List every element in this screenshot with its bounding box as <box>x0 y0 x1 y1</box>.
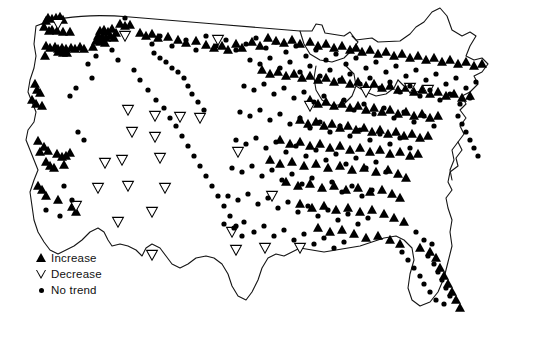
marker-increase <box>335 161 345 170</box>
marker-decrease <box>117 155 128 165</box>
marker-increase <box>455 303 465 312</box>
marker-increase <box>349 229 359 238</box>
marker-no-trend <box>345 211 350 216</box>
marker-no-trend <box>239 233 244 238</box>
marker-no-trend <box>349 183 354 188</box>
marker-no-trend <box>341 239 346 244</box>
marker-increase <box>305 141 315 150</box>
marker-no-trend <box>323 57 328 62</box>
marker-no-trend <box>321 235 326 240</box>
marker-no-trend <box>145 87 150 92</box>
marker-no-trend <box>343 161 348 166</box>
marker-increase <box>367 205 377 214</box>
marker-no-trend <box>69 197 74 202</box>
marker-no-trend <box>153 97 158 102</box>
marker-no-trend <box>433 297 438 302</box>
marker-no-trend <box>363 165 368 170</box>
marker-increase <box>311 159 321 168</box>
marker-no-trend <box>297 115 302 120</box>
marker-no-trend <box>175 69 180 74</box>
marker-no-trend <box>247 57 252 62</box>
marker-no-trend <box>203 33 208 38</box>
marker-increase <box>265 155 275 164</box>
marker-no-trend <box>387 141 392 146</box>
marker-increase <box>385 149 395 158</box>
marker-increase <box>371 167 381 176</box>
marker-no-trend <box>383 69 388 74</box>
marker-no-trend <box>301 89 306 94</box>
marker-no-trend <box>421 113 426 118</box>
marker-no-trend <box>317 73 322 78</box>
marker-no-trend <box>43 207 48 212</box>
marker-no-trend <box>411 265 416 270</box>
marker-no-trend <box>283 49 288 54</box>
marker-no-trend <box>257 107 262 112</box>
marker-no-trend <box>221 203 226 208</box>
marker-no-trend <box>115 57 120 62</box>
marker-increase <box>423 131 433 140</box>
marker-no-trend <box>235 197 240 202</box>
marker-no-trend <box>317 119 322 124</box>
marker-no-trend <box>383 169 388 174</box>
marker-no-trend <box>299 181 304 186</box>
marker-no-trend <box>443 285 448 290</box>
marker-no-trend <box>361 101 366 106</box>
marker-no-trend <box>215 193 220 198</box>
marker-no-trend <box>367 137 372 142</box>
marker-increase <box>231 39 241 48</box>
marker-no-trend <box>101 30 106 35</box>
marker-no-trend <box>255 201 260 206</box>
marker-increase <box>279 38 289 47</box>
marker-no-trend <box>289 171 294 176</box>
marker-no-trend <box>421 237 426 242</box>
marker-no-trend <box>311 99 316 104</box>
marker-increase <box>343 203 353 212</box>
marker-no-trend <box>263 45 268 50</box>
marker-no-trend <box>169 43 174 48</box>
legend-label-no-trend: No trend <box>51 282 97 298</box>
marker-no-trend <box>327 67 332 72</box>
marker-decrease <box>120 31 131 41</box>
marker-no-trend <box>81 137 86 142</box>
marker-decrease <box>113 217 124 227</box>
marker-no-trend <box>203 173 208 178</box>
marker-no-trend <box>193 47 198 52</box>
marker-no-trend <box>287 59 292 64</box>
marker-no-trend <box>183 37 188 42</box>
legend-item-no-trend: No trend <box>33 282 163 298</box>
marker-no-trend <box>297 69 302 74</box>
marker-no-trend <box>253 35 258 40</box>
marker-no-trend <box>243 141 248 146</box>
marker-no-trend <box>109 47 114 52</box>
marker-increase <box>299 161 309 170</box>
marker-no-trend <box>195 99 200 104</box>
marker-no-trend <box>377 131 382 136</box>
marker-increase <box>257 65 267 74</box>
marker-no-trend <box>179 133 184 138</box>
legend-label-decrease: Decrease <box>51 266 102 282</box>
marker-no-trend <box>213 43 218 48</box>
marker-no-trend <box>321 93 326 98</box>
marker-no-trend <box>93 53 98 58</box>
marker-no-trend <box>75 129 80 134</box>
dot-icon <box>33 282 51 298</box>
marker-no-trend <box>313 147 318 152</box>
marker-no-trend <box>335 217 340 222</box>
marker-no-trend <box>337 77 342 82</box>
marker-no-trend <box>275 205 280 210</box>
marker-increase <box>381 47 391 56</box>
marker-no-trend <box>259 173 264 178</box>
marker-no-trend <box>303 53 308 58</box>
marker-increase <box>30 79 40 88</box>
marker-no-trend <box>309 175 314 180</box>
marker-increase <box>345 145 355 154</box>
marker-no-trend <box>307 63 312 68</box>
marker-no-trend <box>433 71 438 76</box>
marker-no-trend <box>281 227 286 232</box>
marker-no-trend <box>367 75 372 80</box>
marker-increase <box>305 37 315 46</box>
marker-no-trend <box>441 301 446 306</box>
marker-no-trend <box>239 169 244 174</box>
marker-no-trend <box>455 113 460 118</box>
marker-increase <box>369 103 379 112</box>
